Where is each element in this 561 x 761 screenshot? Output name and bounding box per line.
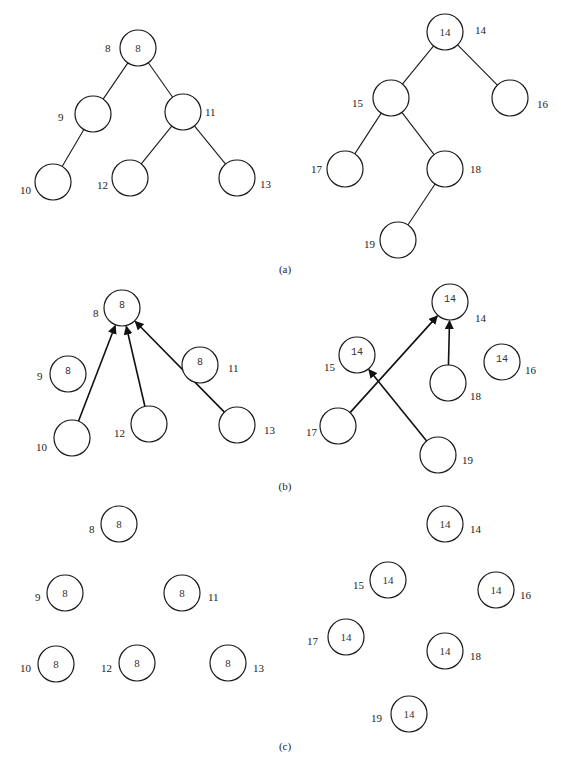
tree-node-10 — [35, 164, 71, 200]
node-value: 14 — [440, 518, 452, 530]
node-label-19: 19 — [462, 454, 474, 466]
node-circle — [219, 407, 255, 443]
node-label-18: 18 — [470, 390, 482, 402]
tree-edge-18-19 — [408, 184, 435, 225]
node-value: 14 — [496, 354, 508, 365]
tree-figure: 814888141414888888141414141414 891110121… — [0, 0, 561, 761]
node-label-10: 10 — [36, 441, 48, 453]
tree-node-17 — [327, 151, 363, 187]
tree-node-10: 8 — [38, 646, 74, 682]
node-label-8: 8 — [93, 307, 99, 319]
tree-edge-11-12 — [141, 126, 171, 164]
node-value: 14 — [404, 708, 416, 720]
tree-node-10 — [54, 420, 90, 456]
caption-c: (c) — [279, 740, 292, 753]
tree-node-17: 14 — [328, 619, 364, 655]
node-value: 8 — [197, 357, 203, 368]
node-label-14: 14 — [470, 523, 482, 535]
node-circle — [112, 160, 148, 196]
tree-node-12 — [112, 160, 148, 196]
node-value: 8 — [135, 42, 141, 54]
tree-node-12: 8 — [119, 645, 155, 681]
node-label-13: 13 — [260, 178, 272, 190]
nodes-layer: 814888141414888888141414141414 — [35, 14, 528, 732]
tree-node-18 — [427, 151, 463, 187]
node-label-17: 17 — [307, 635, 319, 647]
node-label-18: 18 — [470, 163, 482, 175]
node-value: 8 — [62, 587, 68, 599]
tree-node-11: 8 — [182, 347, 218, 383]
node-label-11: 11 — [228, 362, 239, 374]
node-label-9: 9 — [58, 111, 64, 123]
node-circle — [427, 151, 463, 187]
tree-node-9 — [75, 96, 111, 132]
tree-node-14: 14 — [427, 14, 463, 50]
node-label-15: 15 — [352, 97, 364, 109]
node-value: 14 — [440, 645, 452, 657]
tree-edge-9-10 — [62, 130, 84, 167]
tree-edge-15-18 — [402, 112, 434, 154]
node-value: 14 — [440, 26, 452, 38]
tree-node-15: 14 — [339, 337, 375, 373]
node-label-19: 19 — [371, 712, 383, 724]
tree-node-15: 14 — [370, 562, 406, 598]
node-value: 8 — [53, 658, 59, 670]
tree-node-11: 8 — [164, 575, 200, 611]
node-label-13: 13 — [253, 662, 265, 674]
pointer-arrow-19-to-15 — [369, 370, 427, 441]
node-label-16: 16 — [520, 589, 532, 601]
node-circle — [131, 406, 167, 442]
tree-node-15 — [373, 80, 409, 116]
node-value: 8 — [225, 657, 231, 669]
node-label-11: 11 — [205, 106, 216, 118]
tree-node-11 — [165, 94, 201, 130]
pointer-arrow-12-to-8 — [126, 327, 145, 407]
node-circle — [75, 96, 111, 132]
node-value: 14 — [351, 347, 363, 358]
node-label-9: 9 — [37, 370, 43, 382]
node-value: 8 — [116, 518, 122, 530]
node-label-16: 16 — [537, 98, 549, 110]
node-value: 8 — [119, 300, 125, 311]
node-circle — [373, 80, 409, 116]
tree-edge-15-17 — [355, 113, 381, 154]
node-value: 14 — [491, 584, 503, 596]
node-label-9: 9 — [35, 591, 41, 603]
tree-edge-8-11 — [148, 63, 172, 98]
node-circle — [430, 365, 466, 401]
node-value: 14 — [444, 294, 456, 305]
tree-edge-14-16 — [458, 45, 498, 85]
tree-node-18: 14 — [427, 633, 463, 669]
tree-node-19: 14 — [391, 696, 427, 732]
node-label-14: 14 — [475, 312, 487, 324]
node-label-13: 13 — [264, 424, 276, 436]
tree-edge-8-9 — [103, 63, 128, 99]
tree-node-14: 14 — [427, 506, 463, 542]
node-circle — [380, 222, 416, 258]
caption-b: (b) — [279, 480, 292, 493]
node-value: 14 — [341, 631, 353, 643]
tree-node-13 — [219, 160, 255, 196]
tree-node-14: 14 — [432, 284, 468, 320]
tree-node-13: 8 — [210, 645, 246, 681]
tree-node-16: 14 — [484, 344, 520, 380]
node-label-8: 8 — [105, 42, 111, 54]
node-label-17: 17 — [306, 426, 318, 438]
node-circle — [165, 94, 201, 130]
node-label-14: 14 — [475, 24, 487, 36]
node-label-18: 18 — [470, 650, 482, 662]
node-value: 8 — [179, 587, 185, 599]
tree-node-8: 8 — [120, 30, 156, 66]
tree-node-9: 8 — [50, 356, 86, 392]
node-value: 8 — [65, 366, 71, 377]
tree-node-16 — [492, 80, 528, 116]
tree-node-17 — [320, 408, 356, 444]
node-value: 14 — [383, 574, 395, 586]
node-circle — [219, 160, 255, 196]
node-label-10: 10 — [20, 662, 32, 674]
tree-node-8: 8 — [104, 290, 140, 326]
tree-node-12 — [131, 406, 167, 442]
node-label-10: 10 — [20, 184, 32, 196]
node-circle — [320, 408, 356, 444]
node-circle — [327, 151, 363, 187]
